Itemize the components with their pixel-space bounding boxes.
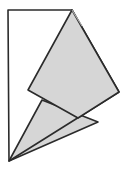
geometry-figure: Overlapping polygon geometry figure bbox=[0, 0, 128, 170]
